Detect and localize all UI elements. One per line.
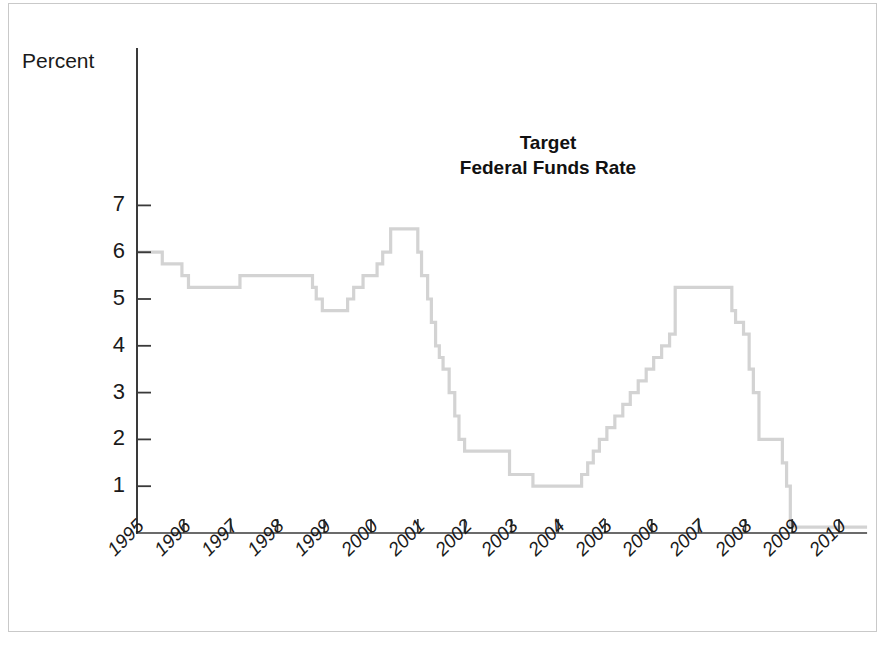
y-tick-label-3: 3	[101, 379, 125, 405]
y-tick-label-5: 5	[101, 285, 125, 311]
data-line-group	[137, 229, 867, 527]
figure-canvas: Percent Target Federal Funds Rate Target…	[0, 0, 887, 652]
y-tick-label-7: 7	[101, 191, 125, 217]
data-line-0	[137, 229, 867, 527]
y-tick-label-6: 6	[101, 238, 125, 264]
axis-group	[136, 48, 867, 534]
y-tick-label-1: 1	[101, 472, 125, 498]
y-tick-label-4: 4	[101, 332, 125, 358]
y-tick-label-2: 2	[101, 425, 125, 451]
